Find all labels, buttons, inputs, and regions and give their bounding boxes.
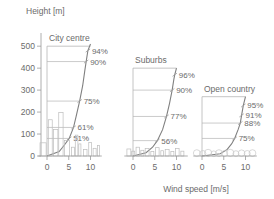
skyline-building: [161, 151, 164, 156]
panel-open-country: Open country95%91%88%75%0510: [193, 84, 263, 172]
skyline-building: [165, 149, 169, 156]
skyline-building: [48, 120, 52, 156]
annotation-label: 90%: [176, 86, 192, 95]
x-tick-label: 5: [66, 162, 71, 172]
y-axis: 0100200300400500: [21, 33, 41, 161]
skyline-building: [64, 141, 69, 156]
panel-title-open-country: Open country: [204, 84, 256, 94]
x-tick-label: 10: [172, 162, 182, 172]
skyline-building: [171, 152, 174, 156]
x-tick-label: 0: [45, 162, 50, 172]
y-tick-label: 400: [21, 63, 35, 73]
skyline-building: [151, 152, 154, 156]
annotation-label: 90%: [90, 58, 106, 67]
x-tick-label: 5: [221, 162, 226, 172]
panels-group: City centre94%90%75%61%51%0510Suburbs96%…: [38, 33, 263, 172]
x-tick-label: 0: [131, 162, 136, 172]
annotation-label: 77%: [170, 112, 186, 121]
skyline-building: [89, 142, 92, 156]
figure-canvas: Height [m] 0100200300400500 City centre9…: [0, 0, 274, 199]
tree-canopy: [238, 150, 245, 157]
wind-profile-curve-open-country: [202, 97, 246, 156]
panel-suburbs: Suburbs96%90%77%56%0510: [124, 55, 194, 172]
skyline-building: [71, 147, 74, 156]
tree-canopy: [193, 150, 200, 157]
skyline-building: [93, 148, 96, 156]
skyline-building: [127, 149, 131, 156]
skyline-building: [84, 149, 87, 156]
skyline-building: [156, 148, 159, 156]
skyline-building: [176, 149, 179, 156]
annotation-label: 94%: [92, 47, 108, 56]
panel-title-suburbs: Suburbs: [135, 55, 167, 65]
skyline-building: [181, 151, 184, 156]
x-axis-title: Wind speed [m/s]: [163, 184, 229, 194]
y-axis-title: Height [m]: [26, 6, 65, 16]
wind-profile-figure: Height [m] 0100200300400500 City centre9…: [0, 0, 274, 199]
skyline-building: [79, 144, 81, 156]
annotation-label: 96%: [179, 71, 195, 80]
y-tick-label: 0: [30, 151, 35, 161]
y-tick-label: 100: [21, 129, 35, 139]
x-tick-label: 10: [241, 162, 251, 172]
x-tick-label: 10: [86, 162, 96, 172]
y-tick-label: 300: [21, 85, 35, 95]
x-tick-label: 0: [200, 162, 205, 172]
y-tick-label: 200: [21, 107, 35, 117]
annotation-label: 75%: [84, 97, 100, 106]
annotation-label: 61%: [78, 123, 94, 132]
x-tick-label: 5: [152, 162, 157, 172]
y-tick-label: 500: [21, 41, 35, 51]
annotation-label: 75%: [239, 134, 255, 143]
annotation-label: 88%: [244, 119, 260, 128]
annotation-label: 95%: [247, 101, 263, 110]
panel-title-city-centre: City centre: [49, 33, 90, 43]
panel-city-centre: City centre94%90%75%61%51%0510: [38, 33, 108, 172]
skyline-building: [97, 145, 99, 156]
annotation-label: 56%: [161, 137, 177, 146]
